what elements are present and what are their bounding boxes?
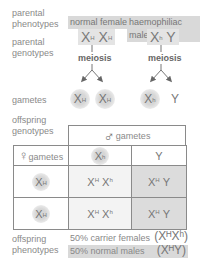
col-header-1: Xh [69, 146, 132, 166]
gamete-male-2: Y [165, 89, 185, 109]
result-text: 50% normal males [70, 246, 145, 256]
col-header-2: Y [132, 146, 187, 166]
row-header-gamete: XH [32, 173, 50, 191]
female-gametes-label: gametes [29, 152, 64, 162]
female-arrow-left [83, 70, 92, 80]
header-row: ♀gametes Xh Y [14, 146, 187, 166]
gamete-female-2: XH [95, 89, 115, 109]
row-header-1: XH [14, 166, 69, 198]
male-symbol-icon: ♂ [104, 128, 115, 145]
col-header-gamete: Xh [91, 147, 109, 165]
result-text: 50% carrier females [70, 233, 150, 243]
row-header-2: XH [14, 198, 69, 230]
offspring-cell: XH Y [132, 166, 187, 198]
gamete-male-1: Xh [140, 89, 160, 109]
offspring-cell: XH Xh [69, 166, 132, 198]
female-gametes-header: ♀gametes [14, 146, 69, 166]
male-arrow-left [152, 70, 161, 80]
male-gametes-label: gametes [116, 131, 151, 141]
result-genotype: (XᴴXʰ) [154, 230, 188, 242]
result-row-2: 50% normal males (XᴴY) [68, 245, 188, 258]
offspring-cell: XH Xh [69, 198, 132, 230]
offspring-cell: XH Y [132, 198, 187, 230]
table-row: XH XH Xh XH Y [14, 198, 187, 230]
female-arrow-right [92, 70, 101, 80]
result-genotype: (XᴴY) [157, 244, 186, 256]
row-header-gamete: XH [32, 205, 50, 223]
table-row: XH XH Xh XH Y [14, 166, 187, 198]
female-symbol-icon: ♀ [19, 148, 29, 163]
gamete-female-1: XH [70, 89, 90, 109]
male-arrow-right [161, 70, 170, 80]
male-gametes-header: ♂ gametes [68, 125, 186, 146]
punnett-square: ♀gametes Xh Y XH XH Xh XH Y XH XH Xh XH … [13, 145, 187, 230]
